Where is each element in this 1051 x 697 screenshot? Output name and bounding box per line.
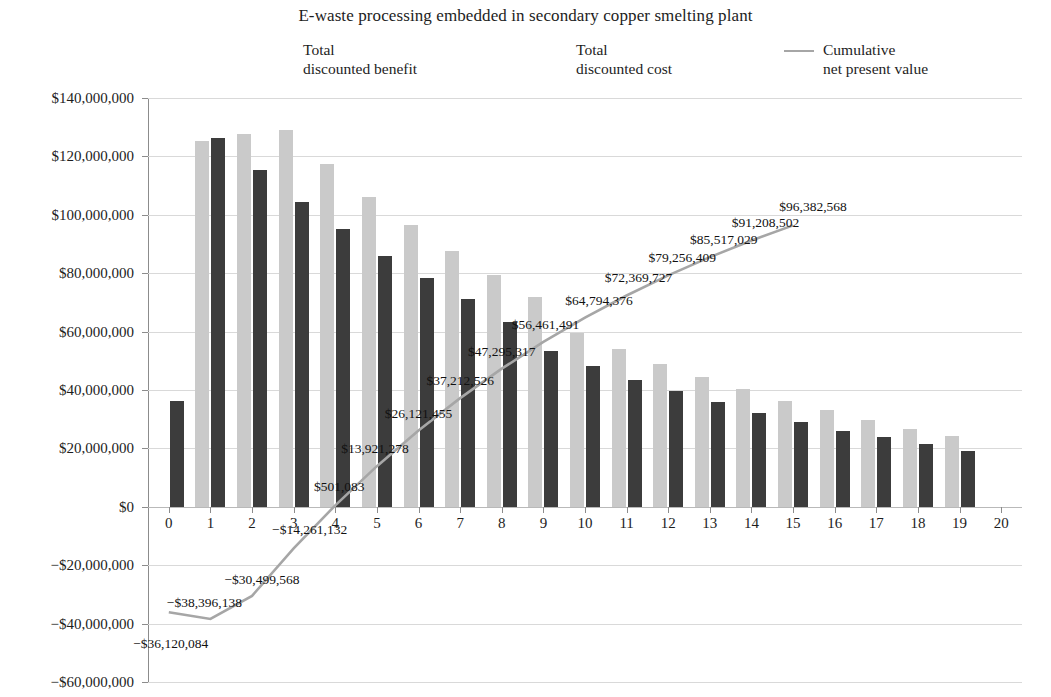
y-axis-tick <box>142 156 148 157</box>
npv-data-label: $47,295,317 <box>468 344 536 360</box>
bar-total-discounted-cost <box>586 366 600 506</box>
x-axis-tick <box>835 507 836 513</box>
legend-swatch-benefit <box>264 44 294 55</box>
x-axis-tick <box>751 507 752 513</box>
bar-total-discounted-cost <box>544 351 558 506</box>
bar-total-discounted-benefit <box>362 197 376 507</box>
x-axis-tick-label: 17 <box>869 515 884 532</box>
npv-data-label: $64,794,376 <box>565 293 633 309</box>
bar-total-discounted-cost <box>961 451 975 507</box>
x-axis-tick <box>627 507 628 513</box>
legend-item-total-discounted-cost: Total discounted cost <box>537 40 672 78</box>
x-axis-tick-label: 16 <box>827 515 842 532</box>
bar-total-discounted-cost <box>420 278 434 507</box>
bar-total-discounted-cost <box>461 299 475 507</box>
npv-data-label: −$36,120,084 <box>133 636 208 652</box>
x-axis-tick <box>252 507 253 513</box>
gridline <box>148 98 1022 99</box>
chart-legend: Total discounted benefit Total discounte… <box>0 40 1051 86</box>
bar-total-discounted-benefit <box>653 364 667 506</box>
bar-total-discounted-benefit <box>820 410 834 507</box>
x-axis-tick <box>668 507 669 513</box>
x-axis-tick-label: 12 <box>661 515 676 532</box>
bar-total-discounted-benefit <box>237 134 251 507</box>
y-axis-tick <box>142 98 148 99</box>
npv-data-label: $13,921,278 <box>341 441 409 457</box>
plot-area: 01234567891011121314151617181920−$36,120… <box>148 98 1022 682</box>
bar-total-discounted-benefit <box>736 389 750 507</box>
legend-label-cost: Total discounted cost <box>576 40 672 78</box>
x-axis-tick <box>543 507 544 513</box>
y-axis-tick <box>142 565 148 566</box>
x-axis-tick <box>960 507 961 513</box>
bar-total-discounted-cost <box>336 229 350 506</box>
legend-item-cumulative-net-present-value: Cumulative net present value <box>784 40 928 78</box>
y-axis-tick-label: $40,000,000 <box>59 382 134 399</box>
bar-total-discounted-cost <box>919 444 933 507</box>
x-axis-tick <box>793 507 794 513</box>
legend-item-total-discounted-benefit: Total discounted benefit <box>264 40 417 78</box>
x-axis-tick-label: 0 <box>165 515 173 532</box>
y-axis-tick-label: $120,000,000 <box>52 148 135 165</box>
y-axis-tick-label: $0 <box>119 498 134 515</box>
y-axis-labels: $140,000,000$120,000,000$100,000,000$80,… <box>0 98 142 682</box>
bar-total-discounted-cost <box>378 256 392 507</box>
bar-total-discounted-cost <box>794 422 808 507</box>
npv-data-label: −$38,396,138 <box>167 595 242 611</box>
x-axis-tick-label: 5 <box>373 515 381 532</box>
y-axis-tick-label: $80,000,000 <box>59 265 134 282</box>
bar-total-discounted-benefit <box>570 333 584 507</box>
x-axis-tick-label: 13 <box>702 515 717 532</box>
x-axis-tick-label: 2 <box>248 515 256 532</box>
npv-data-label: $85,517,029 <box>690 232 758 248</box>
x-axis-tick <box>876 507 877 513</box>
y-axis-tick <box>142 273 148 274</box>
y-axis-tick <box>142 682 148 683</box>
y-axis-tick <box>142 507 148 508</box>
y-axis-tick <box>142 215 148 216</box>
gridline <box>148 565 1022 566</box>
chart-container: E-waste processing embedded in secondary… <box>0 0 1051 697</box>
y-axis-tick-label: −$60,000,000 <box>51 674 134 691</box>
npv-data-label: −$30,499,568 <box>224 572 299 588</box>
y-axis-tick <box>142 332 148 333</box>
legend-label-benefit: Total discounted benefit <box>303 40 417 78</box>
gridline <box>148 624 1022 625</box>
npv-data-label: $96,382,568 <box>779 199 847 215</box>
x-axis-tick-label: 7 <box>456 515 464 532</box>
x-axis-tick <box>460 507 461 513</box>
x-axis-tick-label: 11 <box>619 515 633 532</box>
bar-total-discounted-cost <box>170 401 184 506</box>
y-axis-tick <box>142 390 148 391</box>
bar-total-discounted-benefit <box>903 429 917 506</box>
bar-total-discounted-cost <box>711 402 725 507</box>
x-axis-tick-label: 14 <box>744 515 759 532</box>
x-axis-tick <box>419 507 420 513</box>
x-axis-tick <box>1001 507 1002 513</box>
bar-total-discounted-cost <box>877 437 891 506</box>
chart-title: E-waste processing embedded in secondary… <box>0 6 1051 26</box>
bar-total-discounted-benefit <box>695 377 709 507</box>
y-axis-tick-label: −$20,000,000 <box>51 557 134 574</box>
bar-total-discounted-benefit <box>279 130 293 506</box>
npv-data-label: $79,256,409 <box>648 250 716 266</box>
npv-data-label: $26,121,455 <box>385 406 453 422</box>
bar-total-discounted-benefit <box>778 401 792 507</box>
y-axis-tick-label: $100,000,000 <box>52 206 135 223</box>
npv-data-label: −$14,261,132 <box>272 522 347 538</box>
x-axis-tick <box>169 507 170 513</box>
x-axis-tick-label: 9 <box>540 515 548 532</box>
bar-total-discounted-benefit <box>487 275 501 507</box>
npv-data-label: $501,083 <box>314 479 365 495</box>
x-axis-tick-label: 10 <box>578 515 593 532</box>
npv-data-label: $37,212,526 <box>426 373 494 389</box>
legend-swatch-cost <box>537 44 567 55</box>
x-axis-tick-label: 19 <box>952 515 967 532</box>
gridline <box>148 682 1022 683</box>
bar-total-discounted-benefit <box>861 420 875 507</box>
x-axis-tick <box>335 507 336 513</box>
legend-label-npv: Cumulative net present value <box>823 40 928 78</box>
bar-total-discounted-cost <box>752 413 766 507</box>
y-axis-tick-label: $140,000,000 <box>52 90 135 107</box>
npv-data-label: $72,369,727 <box>605 270 673 286</box>
